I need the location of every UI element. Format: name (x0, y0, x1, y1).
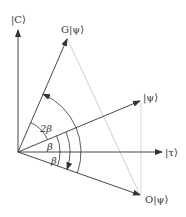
label-beta-lower: β (50, 155, 57, 166)
label-two-beta: 2β (39, 123, 52, 134)
arc-rotation-down (66, 132, 70, 169)
label-tau: |τ⟩ (165, 147, 178, 159)
label-psi: |ψ⟩ (143, 92, 158, 104)
arc-beta-upper (57, 136, 60, 152)
grover-diagram: |C⟩ G|ψ⟩ |ψ⟩ |τ⟩ O|ψ⟩ 2β β β (0, 0, 186, 217)
arc-beta-lower (58, 152, 60, 166)
vector-psi (18, 101, 140, 152)
label-beta-upper: β (46, 141, 53, 152)
label-c: |C⟩ (11, 14, 26, 26)
vector-o-psi (18, 152, 140, 195)
label-o-psi: O|ψ⟩ (145, 194, 168, 206)
label-g-psi: G|ψ⟩ (61, 24, 84, 36)
